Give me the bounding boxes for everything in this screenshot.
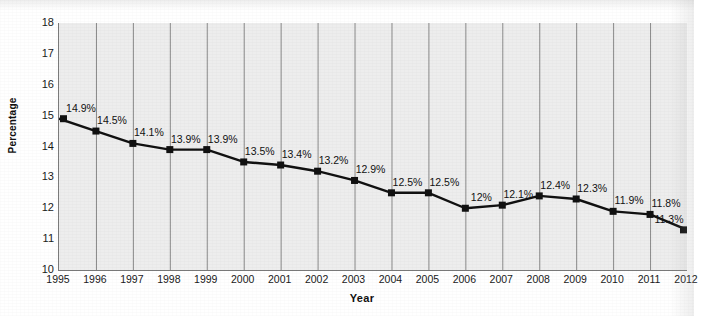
data-point-label: 14.9% xyxy=(66,102,96,113)
data-point-marker xyxy=(166,146,173,153)
data-point-label: 14.1% xyxy=(134,127,164,138)
data-point-marker xyxy=(314,168,321,175)
x-axis-tick-label: 2012 xyxy=(664,274,702,285)
data-point-label: 12.1% xyxy=(503,189,533,200)
data-point-label: 12% xyxy=(471,192,492,203)
data-point-marker xyxy=(499,202,506,209)
data-point-label: 12.3% xyxy=(577,182,607,193)
data-point-marker xyxy=(92,128,99,135)
y-axis-tick-label: 14 xyxy=(24,141,54,152)
data-point-marker xyxy=(647,211,654,218)
data-point-label: 11.8% xyxy=(652,198,681,209)
data-point-marker xyxy=(462,205,469,212)
data-point-label: 13.2% xyxy=(319,155,349,166)
data-point-marker xyxy=(573,195,580,202)
data-point-marker xyxy=(129,140,136,147)
data-point-marker xyxy=(680,226,687,233)
data-point-marker xyxy=(351,177,358,184)
data-point-label: 14.5% xyxy=(97,115,127,126)
data-point-label: 12.4% xyxy=(540,179,570,190)
x-axis-tick-labels: 1995199619971998199920002001200220032004… xyxy=(0,274,694,292)
data-point-label: 12.5% xyxy=(393,176,423,187)
y-axis-tick-label: 11 xyxy=(24,233,54,244)
y-axis-tick-label: 17 xyxy=(24,48,54,59)
data-point-marker xyxy=(203,146,210,153)
data-point-label: 12.5% xyxy=(430,176,460,187)
x-axis-title: Year xyxy=(0,292,694,304)
data-point-label: 13.4% xyxy=(282,149,312,160)
data-point-label: 13.9% xyxy=(208,133,238,144)
data-point-marker xyxy=(610,208,617,215)
data-point-label: 13.5% xyxy=(245,145,275,156)
y-axis-tick-label: 15 xyxy=(24,110,54,121)
data-point-marker xyxy=(240,158,247,165)
y-axis-tick-label: 13 xyxy=(24,171,54,182)
data-point-label: 13.9% xyxy=(171,133,201,144)
y-axis-tick-label: 16 xyxy=(24,79,54,90)
series-line-and-markers xyxy=(59,23,687,270)
data-point-marker xyxy=(60,115,67,122)
vertical-gridlines xyxy=(96,23,687,270)
y-axis-title: Percentage xyxy=(7,86,18,166)
y-axis-tick-label: 12 xyxy=(24,202,54,213)
data-point-label: 11.3% xyxy=(655,213,684,224)
data-point-label: 11.9% xyxy=(615,195,644,206)
data-point-marker xyxy=(536,192,543,199)
y-axis-tick-labels: 181716151413121110 xyxy=(22,0,54,316)
data-point-marker xyxy=(277,162,284,169)
data-point-marker xyxy=(388,189,395,196)
plot-area: 14.9%14.5%14.1%13.9%13.9%13.5%13.4%13.2%… xyxy=(58,23,687,271)
data-point-label: 12.9% xyxy=(356,164,386,175)
data-point-marker xyxy=(425,189,432,196)
y-axis-tick-label: 18 xyxy=(24,17,54,28)
